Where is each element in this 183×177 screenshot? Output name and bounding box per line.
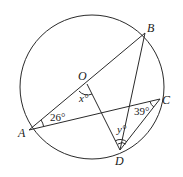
angle-arc-a: [41, 120, 44, 127]
label-o: O: [78, 69, 87, 83]
label-a: A: [17, 126, 26, 140]
angle-label-26: 26°: [50, 111, 65, 123]
angle-arc-c: [150, 102, 154, 108]
angle-label-y: y°: [116, 123, 127, 135]
circle-geometry-diagram: B O A C D x° 26° 39° y°: [0, 0, 183, 177]
label-d: D: [114, 154, 124, 168]
circle: [20, 15, 164, 159]
angle-label-x: x°: [78, 92, 89, 104]
angle-label-39: 39°: [134, 105, 149, 117]
label-c: C: [162, 93, 171, 107]
label-b: B: [147, 21, 155, 35]
angle-arc-d: [115, 139, 127, 142]
angle-arc-d2: [118, 143, 126, 144]
